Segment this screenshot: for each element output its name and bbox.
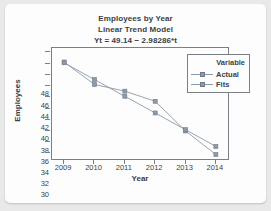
y-tick-mark [45, 119, 50, 120]
data-point-marker [153, 111, 157, 115]
x-tick-mark [185, 160, 186, 164]
data-point-marker [123, 89, 127, 93]
data-point-marker [123, 94, 127, 98]
y-tick-mark [45, 85, 50, 86]
legend-label-actual: Actual [216, 70, 239, 79]
data-point-marker [214, 144, 218, 148]
data-point-marker [214, 153, 218, 157]
legend-title: Variable [191, 58, 245, 67]
chart-title: Employees by Year [5, 14, 266, 23]
x-tick-mark [93, 160, 94, 164]
y-tick-mark [45, 152, 50, 153]
data-point-marker [153, 99, 157, 103]
data-point-marker [184, 128, 188, 132]
x-tick-mark [63, 160, 64, 164]
y-tick-label: 30 [25, 190, 49, 199]
legend-marker-actual-icon [191, 70, 213, 78]
x-axis-title: Year [51, 174, 229, 183]
x-tick-label: 2011 [116, 163, 132, 172]
chart-card: Employees by Year Linear Trend Model Yt … [5, 4, 266, 203]
data-point-marker [92, 82, 96, 86]
y-tick-mark [45, 96, 50, 97]
y-axis-title: Employees [13, 66, 22, 136]
x-tick-label: 2012 [146, 163, 163, 172]
y-tick-label: 32 [25, 179, 49, 188]
x-tick-label: 2009 [55, 163, 72, 172]
y-tick-mark [45, 141, 50, 142]
x-tick-label: 2010 [85, 163, 102, 172]
data-point-marker [62, 61, 66, 65]
employees-by-year-chart: Employees by Year Linear Trend Model Yt … [5, 4, 266, 203]
y-tick-mark [45, 130, 50, 131]
y-tick-mark [45, 63, 50, 64]
x-tick-label: 2014 [207, 163, 224, 172]
y-axis-tick-labels: 48464442403836343230 [23, 47, 49, 160]
trend-equation: Yt = 49.14 − 2.98286*t [5, 36, 266, 45]
x-tick-mark [215, 160, 216, 164]
legend-item-fits[interactable]: Fits [191, 79, 246, 89]
y-tick-mark [45, 51, 50, 52]
chart-subtitle: Linear Trend Model [5, 25, 266, 34]
legend-marker-fits-icon [191, 80, 213, 88]
x-tick-mark [124, 160, 125, 164]
data-point-marker [92, 78, 96, 82]
x-tick-mark [154, 160, 155, 164]
legend-item-actual[interactable]: Actual [191, 69, 246, 79]
x-tick-label: 2013 [176, 163, 193, 172]
y-tick-mark [45, 74, 50, 75]
y-tick-mark [45, 108, 50, 109]
legend: Variable Actual Fits [187, 54, 250, 93]
legend-label-fits: Fits [216, 80, 229, 89]
